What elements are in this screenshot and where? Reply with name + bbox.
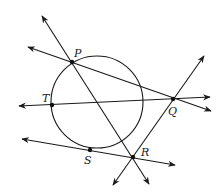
point-P [70,60,74,64]
point-S [88,148,92,152]
points-group [50,60,175,159]
geometry-diagram: PQTSR [0,0,218,196]
label-P: P [73,47,82,60]
line-QR [113,56,204,185]
label-R: R [140,146,149,159]
label-S: S [84,154,92,167]
labels-group: PQTSR [42,47,177,167]
label-Q: Q [168,105,177,118]
point-R [131,155,135,159]
label-T: T [42,92,51,105]
point-T [50,103,54,107]
point-Q [171,97,175,101]
line-SR [22,139,175,165]
